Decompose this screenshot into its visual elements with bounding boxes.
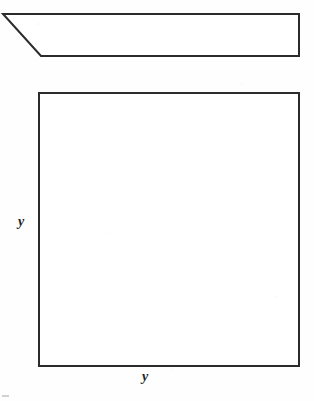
- scan-artifact-speck: [2, 395, 9, 397]
- side-label-bottom: y: [142, 370, 148, 384]
- figure-container: y y: [0, 0, 314, 401]
- geometry-figure-canvas: [0, 0, 314, 401]
- side-label-left: y: [18, 215, 24, 229]
- top-trapezoid-shape: [3, 14, 299, 56]
- bottom-square-shape: [39, 93, 299, 366]
